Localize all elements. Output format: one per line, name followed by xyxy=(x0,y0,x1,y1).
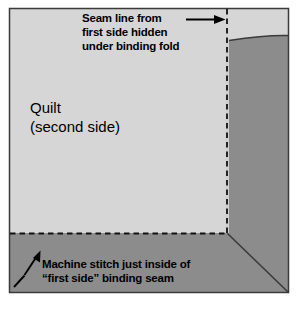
right-binding-strip xyxy=(229,35,289,292)
top-callout-line-1: Seam line from xyxy=(82,12,162,26)
figure-canvas: Seam line from first side hidden under b… xyxy=(0,0,301,311)
quilt-label-line-2: (second side) xyxy=(30,118,120,135)
bottom-callout-line-2: “first side” binding seam xyxy=(42,272,174,286)
bottom-callout-line-1: Machine stitch just inside of xyxy=(42,258,190,272)
top-callout-line-3: under binding fold xyxy=(82,40,179,54)
quilt-label-line-1: Quilt xyxy=(30,99,61,116)
top-callout-line-2: first side hidden xyxy=(82,26,167,40)
